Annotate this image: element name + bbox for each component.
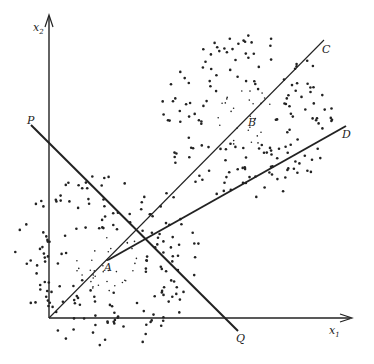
line-PQ (31, 125, 238, 331)
scatter-diagram: x2 x1 P Q C D A B (0, 0, 374, 364)
label-D: D (341, 128, 351, 141)
label-P: P (26, 114, 35, 127)
line-C (49, 40, 324, 318)
scatter-dots (14, 34, 333, 346)
y-axis-label: x2 (33, 21, 44, 36)
x-axis-label: x1 (329, 324, 340, 339)
label-Q: Q (236, 332, 245, 345)
label-C: C (322, 43, 331, 56)
line-D (108, 126, 346, 260)
label-A: A (103, 261, 112, 274)
label-B: B (247, 116, 256, 129)
